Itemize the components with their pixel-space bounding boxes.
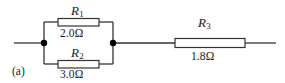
resistor-r1-symbol: R	[71, 3, 79, 18]
resistor-r1-value: 2.0Ω	[60, 28, 83, 40]
resistor-r1-label: R1	[71, 4, 84, 19]
resistor-r3-body	[175, 39, 245, 48]
node-dot-right	[110, 40, 116, 46]
circuit-figure: R1 2.0Ω R2 3.0Ω R3 1.8Ω (a)	[0, 0, 285, 83]
resistor-r2-value: 3.0Ω	[60, 69, 83, 81]
resistor-r2-body	[58, 61, 99, 69]
resistor-r1-body	[58, 19, 99, 27]
resistor-r2-subscript: 2	[79, 51, 84, 61]
figure-caption: (a)	[12, 66, 25, 78]
resistor-r3-symbol: R	[198, 15, 206, 30]
circuit-schematic	[0, 0, 285, 83]
resistor-r1-subscript: 1	[79, 9, 84, 19]
resistor-r3-subscript: 3	[206, 21, 211, 31]
resistor-r2-symbol: R	[71, 45, 79, 60]
resistor-r3-value: 1.8Ω	[191, 51, 214, 63]
resistor-r3-label: R3	[198, 16, 211, 31]
resistor-r2-label: R2	[71, 46, 84, 61]
node-dot-left	[41, 40, 47, 46]
